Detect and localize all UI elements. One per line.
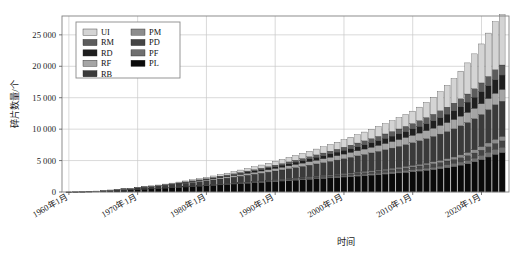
bar-segment	[437, 169, 443, 192]
bar-segment	[389, 142, 395, 149]
bar-segment	[238, 184, 244, 192]
bar-segment	[279, 165, 285, 167]
bar-segment	[327, 178, 333, 192]
bar-segment	[203, 181, 209, 185]
y-tick-label: 20 000	[32, 61, 56, 71]
bar-segment	[341, 140, 347, 147]
bar-segment	[114, 189, 120, 190]
bar-segment	[313, 160, 319, 164]
bar-segment	[348, 145, 354, 148]
bar-segment	[499, 147, 505, 152]
chart-legend[interactable]: UIPMRMPDRDPFRFPLRB	[76, 22, 180, 79]
bar-segment	[203, 177, 209, 178]
bar-segment	[121, 189, 127, 190]
legend-label: PL	[149, 59, 159, 68]
bar-segment	[203, 186, 209, 192]
bar-segment	[320, 159, 326, 163]
bar-segment	[472, 119, 478, 150]
bar-segment	[169, 183, 175, 184]
bar-segment	[375, 171, 381, 173]
bar-segment	[492, 70, 498, 80]
bar-segment	[272, 168, 278, 171]
bar-segment	[231, 184, 237, 192]
bar-segment	[451, 103, 457, 110]
bar-segment	[410, 129, 416, 135]
bar-segment	[279, 181, 285, 192]
bar-segment	[334, 176, 340, 177]
bar-segment	[183, 181, 189, 182]
bar-segment	[430, 114, 436, 120]
bar-segment	[417, 107, 423, 121]
bar-segment	[320, 178, 326, 192]
bar-segment	[410, 111, 416, 123]
bar-segment	[341, 154, 347, 159]
bar-segment	[320, 177, 326, 178]
bar-segment	[320, 153, 326, 156]
bar-segment	[245, 173, 251, 175]
bar-segment	[258, 168, 264, 169]
bar-segment	[382, 170, 388, 172]
bar-segment	[369, 129, 375, 138]
legend-swatch	[83, 50, 97, 56]
bar-segment	[203, 180, 209, 181]
bar-segment	[190, 180, 196, 181]
bar-segment	[217, 178, 223, 179]
bar-segment	[444, 132, 450, 159]
bar-segment	[197, 182, 203, 186]
bar-segment	[300, 153, 306, 158]
bar-segment	[403, 138, 409, 145]
bar-segment	[437, 134, 443, 160]
bar-segment	[472, 89, 478, 98]
bar-segment	[334, 175, 340, 176]
bar-segment	[162, 188, 168, 192]
bar-segment	[485, 143, 491, 147]
bar-segment	[231, 175, 237, 176]
bar-segment	[252, 174, 258, 181]
bar-segment	[492, 150, 498, 155]
bar-segment	[430, 128, 436, 136]
bar-segment	[355, 143, 361, 147]
bar-segment	[451, 157, 457, 159]
bar-segment	[252, 183, 258, 192]
bar-segment	[313, 155, 319, 157]
bar-segment	[458, 155, 464, 158]
bar-segment	[479, 150, 485, 155]
bar-segment	[355, 135, 361, 143]
bar-segment	[396, 134, 402, 140]
bar-segment	[465, 164, 471, 192]
bar-segment	[389, 168, 395, 169]
bar-segment	[437, 160, 443, 162]
bar-segment	[238, 170, 244, 172]
bar-segment	[197, 179, 203, 180]
y-tick-label: 10 000	[32, 124, 56, 134]
bar-segment	[107, 190, 113, 191]
bar-segment	[485, 33, 491, 76]
bar-segment	[472, 153, 478, 158]
bar-segment	[258, 182, 264, 192]
bar-segment	[458, 116, 464, 126]
bar-segment	[444, 161, 450, 165]
bar-segment	[444, 123, 450, 132]
bar-segment	[403, 166, 409, 167]
legend-swatch	[83, 71, 97, 77]
bar-segment	[341, 147, 347, 150]
bar-segment	[272, 171, 278, 180]
bar-segment	[169, 188, 175, 192]
bar-segment	[410, 135, 416, 142]
bar-segment	[293, 180, 299, 192]
bar-segment	[190, 182, 196, 186]
bar-segment	[451, 79, 457, 104]
bar-segment	[479, 104, 485, 115]
bar-segment	[307, 162, 313, 166]
bar-segment	[499, 141, 505, 147]
bar-segment	[355, 176, 361, 192]
bar-segment	[465, 155, 471, 160]
bar-segment	[320, 147, 326, 153]
bar-segment	[403, 171, 409, 173]
bar-segment	[183, 183, 189, 186]
bar-segment	[155, 185, 161, 186]
bar-segment	[430, 162, 436, 164]
bar-segment	[341, 177, 347, 192]
bar-segment	[492, 80, 498, 94]
bar-segment	[190, 186, 196, 192]
